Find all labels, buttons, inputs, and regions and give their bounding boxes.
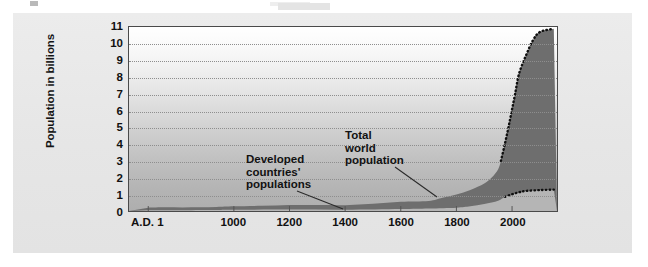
y-tick-label: 1 xyxy=(97,189,123,201)
x-tick-label: 2000 xyxy=(500,216,526,228)
annotation-developed-countries: Developed countries' populations xyxy=(246,153,311,191)
x-tick-label: A.D. 1 xyxy=(131,216,164,228)
x-tick-label: 1800 xyxy=(444,216,470,228)
x-tick-label: 1000 xyxy=(221,216,247,228)
y-tick-label: 5 xyxy=(97,121,123,133)
scan-artifact-mark xyxy=(30,1,38,6)
gridline xyxy=(129,196,557,197)
gridline xyxy=(129,162,557,163)
y-tick-label: 11 xyxy=(97,20,123,32)
gridline xyxy=(129,128,557,129)
gridline xyxy=(129,95,557,96)
gridline xyxy=(129,44,557,45)
y-tick-label: 4 xyxy=(97,138,123,150)
y-tick-label: 2 xyxy=(97,172,123,184)
scan-artifact-smudge-2 xyxy=(278,3,330,10)
gridline xyxy=(129,78,557,79)
y-tick-label: 0 xyxy=(97,206,123,218)
y-tick-label: 3 xyxy=(97,155,123,167)
gridline xyxy=(129,145,557,146)
y-tick-label: 9 xyxy=(97,54,123,66)
x-tick-label: 1600 xyxy=(388,216,414,228)
plot-area xyxy=(128,26,558,212)
x-tick-label: 1200 xyxy=(276,216,302,228)
area-total-world-population xyxy=(129,29,557,211)
y-tick-label: 10 xyxy=(97,37,123,49)
gridline xyxy=(129,112,557,113)
y-tick-label: 7 xyxy=(97,88,123,100)
y-axis-tick-labels: 01234567891011 xyxy=(95,26,123,212)
chart-figure-panel: Population in billions 01234567891011 A.… xyxy=(13,13,632,253)
series-svg xyxy=(129,27,557,211)
gridline xyxy=(129,179,557,180)
gridline xyxy=(129,61,557,62)
y-axis-title: Population in billions xyxy=(44,16,56,166)
y-tick-label: 8 xyxy=(97,71,123,83)
y-tick-label: 6 xyxy=(97,105,123,117)
x-axis-tick-labels: A.D. 1100012001400160018002000 xyxy=(128,216,558,236)
annotation-total-world-population: Total world population xyxy=(345,129,404,167)
x-tick-label: 1400 xyxy=(332,216,358,228)
